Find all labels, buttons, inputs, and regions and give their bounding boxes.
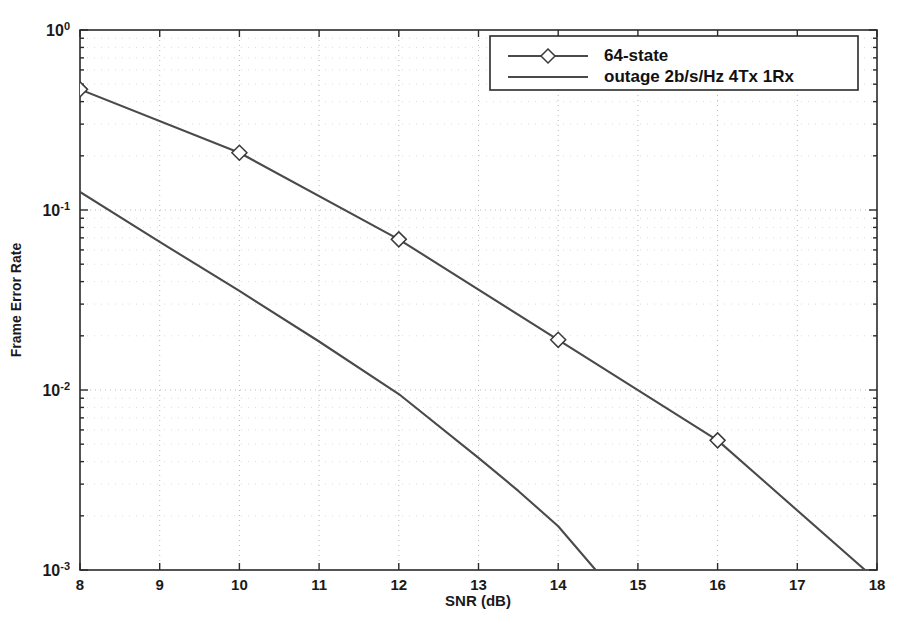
data-point-marker-64-state bbox=[73, 82, 88, 97]
legend-label-64-state: 64-state bbox=[604, 46, 668, 66]
legend-label-outage: outage 2b/s/Hz 4Tx 1Rx bbox=[604, 67, 794, 87]
data-point-marker-64-state bbox=[232, 145, 247, 160]
plot-canvas bbox=[0, 0, 901, 621]
x-tick-label: 15 bbox=[630, 576, 647, 593]
data-point-marker-64-state bbox=[391, 232, 406, 247]
y-tick-label: 100 bbox=[20, 20, 70, 40]
x-tick-label: 18 bbox=[869, 576, 886, 593]
series-line-outage bbox=[80, 192, 596, 570]
axis-label-x: SNR (dB) bbox=[445, 592, 511, 609]
grid-horizontal-lines bbox=[80, 38, 877, 516]
x-tick-label: 11 bbox=[311, 576, 327, 593]
axis-label-y: Frame Error Rate bbox=[8, 243, 24, 357]
y-tick-label: 10-3 bbox=[20, 560, 70, 580]
x-tick-label: 9 bbox=[156, 576, 164, 593]
data-point-marker-64-state bbox=[551, 332, 566, 347]
x-tick-label: 16 bbox=[709, 576, 726, 593]
x-tick-label: 17 bbox=[789, 576, 806, 593]
x-tick-label: 8 bbox=[76, 576, 84, 593]
x-tick-label: 14 bbox=[550, 576, 567, 593]
x-tick-label: 12 bbox=[390, 576, 407, 593]
x-tick-label: 13 bbox=[470, 576, 487, 593]
y-tick-label: 10-2 bbox=[20, 380, 70, 400]
y-tick-label: 10-1 bbox=[20, 200, 70, 220]
x-tick-label: 10 bbox=[231, 576, 248, 593]
series-line-64-state bbox=[80, 89, 865, 570]
figure-chart-frame-error-rate: 64-state outage 2b/s/Hz 4Tx 1Rx SNR (dB)… bbox=[0, 0, 901, 621]
